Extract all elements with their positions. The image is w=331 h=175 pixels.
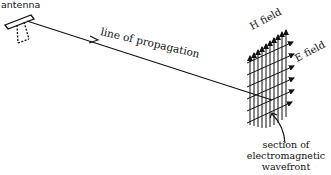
antenna-icon	[5, 15, 34, 43]
wavefront-grid	[247, 30, 294, 128]
line-of-propagation-label: line of propagation	[100, 25, 202, 60]
caption-line-1: section of	[263, 139, 311, 150]
h-field-label: H field	[248, 6, 284, 32]
caption-line-2: electromagnetic	[247, 150, 325, 161]
propagation-line	[27, 21, 272, 100]
e-field-label: E field	[293, 38, 328, 63]
antenna-label: antenna	[1, 0, 40, 10]
caption-line-3: wavefront	[262, 161, 311, 172]
em-wave-diagram: antenna line of propagation H field E fi	[0, 0, 331, 175]
